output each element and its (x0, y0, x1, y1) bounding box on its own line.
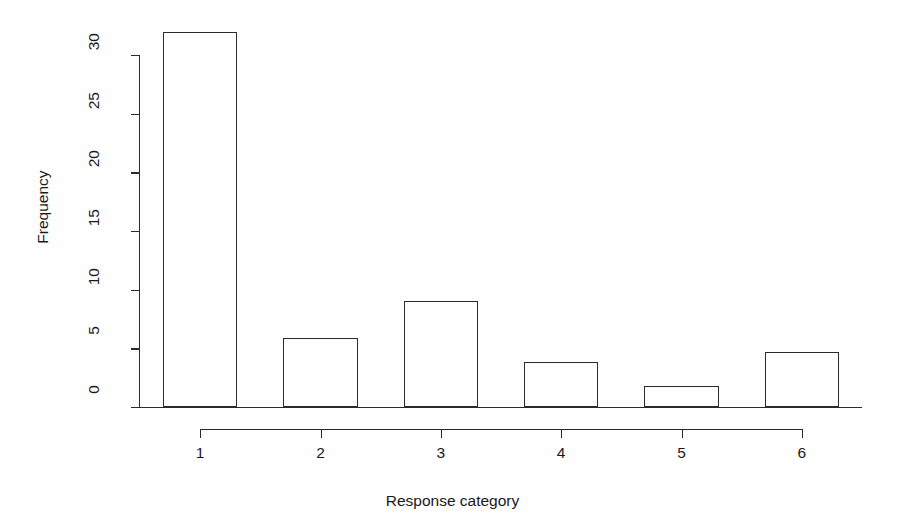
x-tick-6 (802, 429, 803, 438)
bar-4 (524, 362, 599, 407)
x-tick-1 (200, 429, 201, 438)
x-tick-4 (561, 429, 562, 438)
x-tick-label-6: 6 (782, 444, 822, 462)
x-tick-3 (441, 429, 442, 438)
y-axis-title: Frequency (34, 147, 52, 267)
y-tick-label-10: 10 (85, 268, 103, 312)
y-tick-label-20: 20 (85, 150, 103, 194)
x-tick-5 (682, 429, 683, 438)
y-tick-30 (131, 55, 139, 56)
y-tick-label-15: 15 (85, 209, 103, 253)
x-tick-label-1: 1 (180, 444, 220, 462)
bar-5 (644, 386, 719, 407)
bar-6 (765, 352, 840, 407)
y-tick-5 (131, 348, 139, 349)
x-tick-label-4: 4 (541, 444, 581, 462)
y-tick-label-5: 5 (85, 326, 103, 370)
y-tick-10 (131, 290, 139, 291)
x-tick-label-3: 3 (421, 444, 461, 462)
bar-3 (404, 301, 479, 407)
plot-area: 051015202530 Frequency 123456 Response c… (0, 0, 905, 530)
bar-2 (283, 338, 358, 407)
x-tick-label-5: 5 (662, 444, 702, 462)
bar-1 (163, 32, 238, 407)
x-axis-line (140, 407, 862, 408)
x-tick-axis-line (200, 429, 802, 430)
y-tick-25 (131, 114, 139, 115)
y-tick-20 (131, 172, 139, 173)
chart-page: 051015202530 Frequency 123456 Response c… (0, 0, 905, 530)
x-tick-2 (321, 429, 322, 438)
y-tick-15 (131, 231, 139, 232)
y-tick-label-25: 25 (85, 92, 103, 136)
y-axis-line (139, 55, 140, 408)
y-tick-label-0: 0 (85, 385, 103, 429)
x-tick-label-2: 2 (301, 444, 341, 462)
y-tick-0 (131, 407, 139, 408)
x-axis-title: Response category (0, 492, 905, 510)
y-tick-label-30: 30 (85, 33, 103, 77)
